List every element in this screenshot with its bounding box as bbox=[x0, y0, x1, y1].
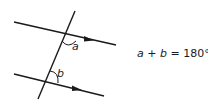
angle-a-label: a bbox=[72, 40, 79, 53]
formula-value: 180° bbox=[183, 47, 208, 60]
angle-b-label: b bbox=[57, 67, 64, 80]
formula-plus: + bbox=[144, 47, 160, 60]
transversal-line bbox=[38, 11, 75, 99]
angle-sum-formula: a + b = 180° bbox=[137, 47, 208, 60]
formula-var-a: a bbox=[137, 47, 144, 60]
top-arrow-icon bbox=[84, 36, 94, 42]
formula-var-b: b bbox=[160, 47, 167, 60]
diagram-canvas: a b a + b = 180° bbox=[0, 0, 208, 109]
formula-equals: = bbox=[167, 47, 183, 60]
